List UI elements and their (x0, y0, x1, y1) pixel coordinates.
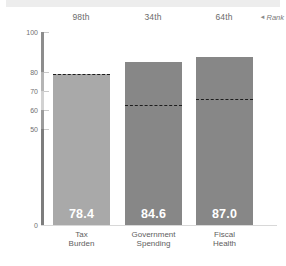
y-tick-label-70: 70 (14, 88, 38, 95)
reference-line-tax-burden (53, 74, 110, 75)
axis-segment-60-50 (41, 110, 44, 129)
axis-segment-70-60 (41, 91, 44, 110)
y-tick-label-80: 80 (14, 69, 38, 76)
plot-area: 100 80 70 60 50 0 78.4 84.6 87.0 Tax (0, 0, 286, 266)
chart-container: 98th 34th 64th ◄Rank 100 80 70 60 50 0 7… (0, 0, 286, 266)
bar-fiscal-health[interactable]: 87.0 (196, 57, 253, 225)
y-tick-label-50: 50 (14, 126, 38, 133)
category-label-fiscal-health: Fiscal Health (196, 230, 253, 249)
category-label-line-2: Burden (53, 239, 110, 248)
bar-government-spending[interactable]: 84.6 (125, 62, 182, 225)
y-tick-label-100: 100 (14, 29, 38, 36)
category-label-line-1: Government (119, 230, 188, 239)
bar-tax-burden[interactable]: 78.4 (53, 74, 110, 225)
axis-segment-50-0 (41, 129, 44, 225)
reference-line-government-spending (125, 105, 182, 106)
category-label-government-spending: Government Spending (119, 230, 188, 249)
y-tick-mark-70 (44, 91, 49, 92)
y-tick-label-60: 60 (14, 107, 38, 114)
category-label-tax-burden: Tax Burden (53, 230, 110, 249)
y-tick-mark-50 (44, 129, 49, 130)
axis-segment-100-80 (41, 32, 44, 72)
category-label-line-1: Fiscal (196, 230, 253, 239)
bar-value-fiscal-health: 87.0 (196, 207, 253, 221)
x-axis-baseline (41, 225, 277, 226)
bar-value-tax-burden: 78.4 (53, 207, 110, 221)
y-tick-mark-80 (44, 72, 49, 73)
y-tick-label-0: 0 (14, 222, 38, 229)
reference-line-fiscal-health (196, 99, 253, 100)
bar-value-government-spending: 84.6 (125, 207, 182, 221)
y-tick-mark-100 (44, 32, 49, 33)
category-label-line-1: Tax (53, 230, 110, 239)
category-label-line-2: Health (196, 239, 253, 248)
category-label-line-2: Spending (119, 239, 188, 248)
y-tick-mark-60 (44, 110, 49, 111)
axis-segment-80-70 (41, 72, 44, 91)
